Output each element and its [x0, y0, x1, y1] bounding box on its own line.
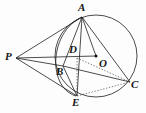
point-label-E: E — [72, 97, 79, 108]
center-dot-O — [95, 55, 98, 58]
point-label-C: C — [131, 79, 138, 90]
point-label-O: O — [99, 58, 107, 69]
point-label-D: D — [69, 44, 77, 55]
point-label-A: A — [78, 2, 85, 13]
segment-A-O — [82, 17, 96, 56]
segment-E-C — [77, 82, 130, 96]
point-label-B: B — [56, 66, 63, 77]
point-label-P: P — [5, 51, 12, 62]
geometry-figure: A P D O B C E — [0, 0, 146, 113]
